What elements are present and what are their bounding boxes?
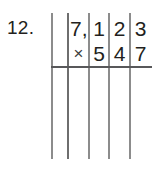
multiplicand-digit-hundreds: 1 (90, 17, 108, 41)
multiplicand-digit-tens: 2 (110, 17, 129, 41)
multiplier-digit-tens: 4 (110, 42, 129, 66)
multiplicand-digit-ones: 3 (131, 17, 150, 41)
problem-number-label: 12. (7, 17, 34, 39)
multiplier-digit-hundreds: 5 (90, 42, 108, 66)
worksheet-problem: 12. 7, 1 2 3 × 5 4 7 (0, 0, 159, 169)
multiplication-operator-icon: × (69, 42, 88, 66)
answer-work-area[interactable] (51, 68, 152, 159)
multiplicand-digit-thousands: 7, (69, 17, 89, 41)
multiplier-digit-ones: 7 (131, 42, 150, 66)
